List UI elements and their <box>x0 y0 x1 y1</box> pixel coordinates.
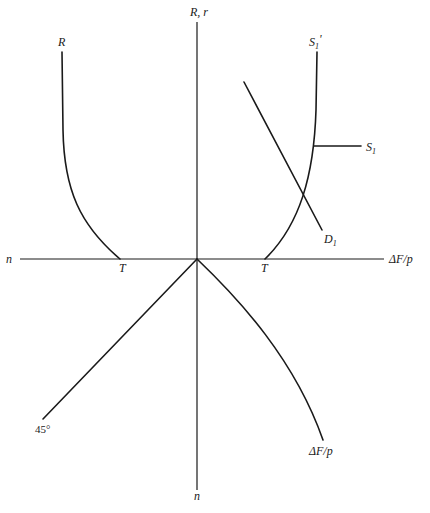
vertical-axis-top-label: R, r <box>189 5 208 19</box>
horizontal-axis-left-label: n <box>6 252 12 266</box>
s1-prime-t-label: T <box>261 261 269 275</box>
s1-prime-label: S1' <box>309 32 322 51</box>
r-curve <box>62 52 120 259</box>
horizontal-axis-right-label: ΔF/p <box>388 252 413 266</box>
d1-curve <box>244 82 322 230</box>
line-45-degree <box>43 259 197 419</box>
vertical-axis-bottom-label: n <box>194 489 200 503</box>
s1-prime-curve <box>265 52 317 259</box>
delta-f-p-curve-label: ΔF/p <box>308 444 333 458</box>
s1-label: S1 <box>366 140 376 156</box>
delta-f-p-curve <box>197 259 323 440</box>
line-45-degree-label: 45° <box>35 423 50 435</box>
r-curve-label: R <box>57 35 66 49</box>
four-quadrant-diagram: R, r n n ΔF/p R T S1' T S1 D1 45° ΔF/p <box>0 0 430 513</box>
r-curve-t-label: T <box>119 261 127 275</box>
d1-label: D1 <box>323 232 337 248</box>
